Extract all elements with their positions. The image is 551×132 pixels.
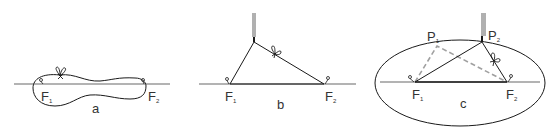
focus-label-f2: F2: [325, 89, 337, 104]
traced-ellipse: [375, 40, 545, 126]
pin-icon: [325, 77, 330, 85]
focus-label-f1: F1: [41, 89, 53, 104]
string-triangle-p2: [415, 42, 507, 82]
ellipse-construction-diagram: F1 F2 a F1 F2 b: [0, 0, 551, 132]
knot-icon: [490, 53, 500, 66]
focus-label-f2: F2: [506, 87, 518, 102]
pin-icon: [142, 79, 145, 85]
focus-label-f1: F1: [225, 89, 237, 104]
panel-b: F1 F2 b: [199, 13, 356, 112]
focus-label-f2: F2: [148, 89, 160, 104]
panel-a: F1 F2 a: [14, 67, 170, 116]
panel-c: P1 P2 F1 F2 c: [375, 13, 545, 126]
pin-icon: [40, 79, 44, 85]
pencil-icon: [252, 13, 256, 37]
pencil-icon: [481, 13, 486, 36]
panel-caption-c: c: [460, 96, 467, 111]
point-label-p2: P2: [488, 28, 501, 43]
panel-caption-a: a: [92, 101, 100, 116]
string-triangle: [230, 42, 324, 84]
pin-icon: [226, 78, 230, 85]
knot-icon: [56, 67, 66, 79]
pin-icon: [508, 75, 513, 83]
knot-icon: [272, 46, 281, 58]
panel-caption-b: b: [277, 97, 284, 112]
pin-icon: [409, 76, 415, 83]
focus-label-f1: F1: [412, 87, 424, 102]
point-label-p1: P1: [427, 29, 440, 44]
